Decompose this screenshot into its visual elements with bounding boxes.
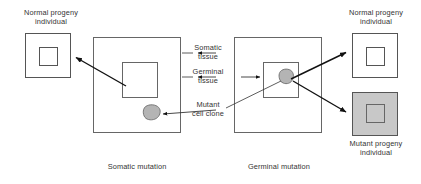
- organism-germinal-box: [235, 38, 322, 133]
- mutant-cell-clone-blob-germinal: [279, 69, 293, 84]
- arrow-germinal-to-normal-progeny: [291, 53, 346, 80]
- label-mutant-cell-clone: Mutant cell clone: [184, 100, 232, 119]
- mutation-diagram: Normal progeny individual Normal progeny…: [0, 0, 421, 184]
- caption-germinal-mutation: Germinal mutation: [230, 162, 328, 171]
- label-mutant-progeny-right: Mutant progeny individual: [334, 139, 418, 158]
- label-normal-progeny-left: Normal progeny individual: [10, 8, 92, 27]
- arrow-germinal-to-mutant-progeny: [293, 81, 346, 112]
- label-somatic-tissue: Somatic tissue: [185, 43, 231, 62]
- progeny-right-mutant-inner-square: [367, 105, 385, 123]
- mutant-cell-clone-blob-somatic: [143, 105, 160, 120]
- arrow-somatic-to-normal-progeny: [76, 58, 126, 87]
- label-germinal-tissue: Germinal tissue: [185, 67, 231, 86]
- label-normal-progeny-right: Normal progeny individual: [334, 8, 418, 27]
- caption-somatic-mutation: Somatic mutation: [90, 162, 184, 171]
- organism-somatic-box: [94, 38, 181, 133]
- progeny-right-normal-box: [353, 34, 398, 78]
- progeny-left-box: [26, 34, 71, 78]
- organism-somatic-germinal-square: [123, 63, 158, 98]
- progeny-right-normal-inner-square: [367, 48, 385, 66]
- progeny-left-inner-square: [40, 48, 58, 66]
